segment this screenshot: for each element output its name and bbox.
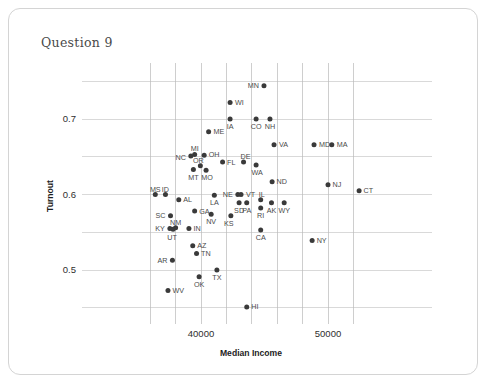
data-point[interactable]: CA: [256, 227, 266, 242]
data-point[interactable]: OK: [194, 274, 205, 289]
point-label: NE: [223, 190, 233, 199]
point-marker[interactable]: [270, 179, 275, 184]
point-label: TN: [201, 249, 211, 258]
x-tick-label: 50000: [315, 328, 341, 339]
point-label: MD: [319, 140, 330, 149]
data-point[interactable]: VT: [239, 190, 256, 199]
point-marker[interactable]: [176, 197, 181, 202]
point-marker[interactable]: [228, 100, 233, 105]
data-point[interactable]: VA: [272, 140, 289, 149]
point-marker[interactable]: [258, 227, 263, 232]
point-marker[interactable]: [326, 182, 331, 187]
point-marker[interactable]: [282, 200, 287, 205]
data-point[interactable]: PA: [242, 200, 251, 215]
point-marker[interactable]: [204, 168, 209, 173]
data-point[interactable]: HI: [244, 302, 258, 311]
point-marker[interactable]: [329, 142, 334, 147]
x-tick-labels: 4000050000: [188, 328, 341, 339]
data-point[interactable]: ME: [206, 127, 224, 136]
data-point[interactable]: OR: [193, 156, 204, 169]
point-label: PA: [242, 206, 251, 215]
point-marker[interactable]: [272, 142, 277, 147]
point-marker[interactable]: [254, 117, 259, 122]
data-point[interactable]: FL: [220, 158, 235, 167]
point-label: IN: [193, 224, 200, 233]
data-point[interactable]: GA: [192, 207, 210, 216]
point-label: NJ: [333, 180, 342, 189]
data-point[interactable]: MT: [188, 167, 199, 182]
point-marker[interactable]: [212, 193, 217, 198]
point-marker[interactable]: [190, 243, 195, 248]
point-marker[interactable]: [165, 288, 170, 293]
point-marker[interactable]: [239, 192, 244, 197]
point-label: HI: [251, 302, 258, 311]
data-point[interactable]: AK: [267, 200, 277, 215]
data-point[interactable]: WA: [251, 163, 263, 177]
data-point[interactable]: ND: [270, 177, 287, 186]
point-marker[interactable]: [244, 200, 249, 205]
data-points: MNWIIACONHMEVAMDMAMINCOHFLDEWAORMTMONDNJ…: [150, 81, 374, 311]
point-marker[interactable]: [269, 200, 274, 205]
data-point[interactable]: CT: [357, 186, 374, 195]
data-point[interactable]: WV: [165, 286, 184, 295]
point-label: VA: [279, 140, 288, 149]
data-point[interactable]: NY: [310, 236, 327, 245]
point-label: IL: [259, 190, 265, 199]
point-label: WV: [172, 286, 184, 295]
data-point[interactable]: WY: [278, 200, 290, 215]
data-point[interactable]: ID: [162, 185, 169, 198]
point-label: NH: [265, 122, 275, 131]
point-marker[interactable]: [194, 251, 199, 256]
point-label: TX: [212, 273, 221, 282]
data-point[interactable]: MN: [248, 81, 267, 90]
point-marker[interactable]: [228, 117, 233, 122]
point-marker[interactable]: [186, 226, 191, 231]
point-marker[interactable]: [267, 117, 272, 122]
point-marker[interactable]: [197, 274, 202, 279]
point-label: VT: [246, 190, 256, 199]
point-marker[interactable]: [261, 83, 266, 88]
point-marker[interactable]: [258, 206, 263, 211]
y-tick-label: 0.6: [63, 189, 76, 200]
point-marker[interactable]: [357, 188, 362, 193]
data-point[interactable]: IN: [186, 224, 200, 233]
point-label: IA: [227, 122, 234, 131]
point-marker[interactable]: [244, 304, 249, 309]
y-tick-label: 0.5: [63, 264, 76, 275]
point-marker[interactable]: [214, 268, 219, 273]
point-marker[interactable]: [192, 209, 197, 214]
point-label: MO: [201, 173, 213, 182]
data-point[interactable]: AR: [157, 256, 175, 265]
data-point[interactable]: KS: [224, 213, 234, 228]
data-point[interactable]: RI: [257, 206, 264, 221]
point-marker[interactable]: [206, 129, 211, 134]
point-marker[interactable]: [310, 238, 315, 243]
data-point[interactable]: WI: [228, 98, 244, 107]
point-marker[interactable]: [170, 258, 175, 263]
data-point[interactable]: MA: [329, 140, 347, 149]
point-marker[interactable]: [312, 142, 317, 147]
data-point[interactable]: OH: [202, 150, 220, 159]
point-marker[interactable]: [228, 213, 233, 218]
point-marker[interactable]: [171, 227, 176, 232]
point-marker[interactable]: [220, 160, 225, 165]
data-point[interactable]: MD: [312, 140, 331, 149]
data-point[interactable]: NE: [223, 190, 241, 199]
data-point[interactable]: IL: [258, 190, 265, 203]
point-label: UT: [167, 233, 177, 242]
data-point[interactable]: MO: [201, 168, 213, 183]
y-gridlines: [82, 81, 432, 308]
data-point[interactable]: NC: [175, 153, 193, 162]
point-label: LA: [210, 198, 219, 207]
data-point[interactable]: LA: [210, 193, 219, 208]
point-marker[interactable]: [191, 167, 196, 172]
point-label: WI: [235, 98, 244, 107]
data-point[interactable]: AL: [176, 195, 192, 204]
point-label: MI: [191, 144, 199, 153]
point-marker[interactable]: [209, 212, 214, 217]
point-marker[interactable]: [237, 200, 242, 205]
point-label: CT: [364, 186, 374, 195]
point-label: KY: [155, 224, 165, 233]
data-point[interactable]: DE: [241, 152, 251, 165]
data-point[interactable]: MS: [150, 185, 161, 198]
